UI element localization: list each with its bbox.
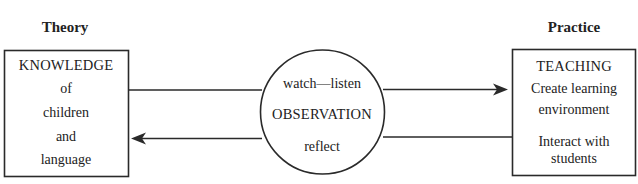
practice-box-line: Create learning: [531, 82, 617, 96]
theory-box-line: children: [43, 106, 89, 120]
theory-box-line: of: [60, 82, 72, 96]
practice-box-line: TEACHING: [536, 59, 612, 74]
theory-heading: Theory: [42, 20, 89, 35]
theory-box-line: and: [56, 130, 76, 144]
practice-box-line: environment: [539, 103, 610, 117]
theory-practice-diagram: Theory Practice KNOWLEDGE of children an…: [0, 0, 638, 184]
observation-top-text: watch—listen: [283, 77, 361, 91]
theory-box-line: language: [41, 153, 92, 167]
practice-heading: Practice: [548, 20, 600, 35]
observation-center-text: OBSERVATION: [272, 107, 372, 122]
theory-box-line: KNOWLEDGE: [19, 58, 113, 73]
observation-bottom-text: reflect: [304, 140, 340, 154]
practice-box-line: students: [551, 152, 597, 166]
practice-box-line: Interact with: [538, 135, 609, 149]
